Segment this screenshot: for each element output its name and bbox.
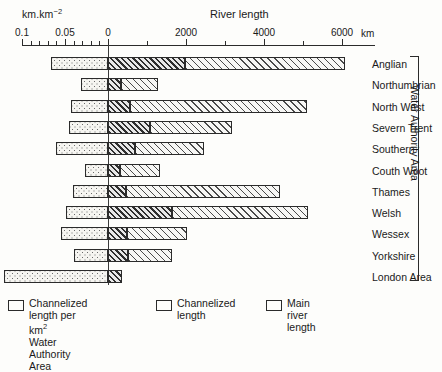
bar-segment-main-river[interactable] xyxy=(121,78,158,91)
legend-label: Channelized length xyxy=(177,297,235,321)
axis-tick-label: 6000 xyxy=(331,27,353,38)
category-label: Anglian xyxy=(372,58,407,70)
bar-segment-density[interactable] xyxy=(66,206,108,219)
legend-label: Main river length xyxy=(287,297,316,333)
bar-segment-channelized[interactable] xyxy=(108,57,185,70)
bar-segment-density[interactable] xyxy=(61,227,108,240)
bar-segment-density[interactable] xyxy=(69,121,108,134)
legend-swatch-hatch-dense xyxy=(156,300,172,311)
axis-tick-label: 4000 xyxy=(253,27,275,38)
axis-tick-label: 2000 xyxy=(175,27,197,38)
bar-segment-main-river[interactable] xyxy=(135,142,204,155)
bar-segment-density[interactable] xyxy=(4,270,108,283)
bar-segment-channelized[interactable] xyxy=(108,121,150,134)
legend-label: Channelized length per km2Water Authorit… xyxy=(29,297,87,372)
left-axis-unit-text: km.km−2 xyxy=(22,8,62,20)
axis-tick-label-left: 0.1 xyxy=(15,27,29,38)
legend-swatch-dots xyxy=(8,300,24,311)
bar-segment-density[interactable] xyxy=(85,164,108,177)
axis-line xyxy=(22,45,375,46)
bar-segment-channelized[interactable] xyxy=(108,185,126,198)
category-label: Wessex xyxy=(372,228,409,240)
bar-segment-main-river[interactable] xyxy=(128,249,172,262)
bar-segment-channelized[interactable] xyxy=(108,270,122,283)
bar-segment-channelized[interactable] xyxy=(108,227,127,240)
bar-segment-main-river[interactable] xyxy=(172,206,308,219)
bar-segment-main-river[interactable] xyxy=(130,100,307,113)
axis-tick-label-left: 0.05 xyxy=(55,27,74,38)
bar-segment-main-river[interactable] xyxy=(150,121,232,134)
category-label: Thames xyxy=(372,186,410,198)
bar-segment-main-river[interactable] xyxy=(126,185,280,198)
category-label: Welsh xyxy=(372,207,401,219)
chart-title: River length xyxy=(210,8,269,20)
bar-segment-channelized[interactable] xyxy=(108,249,128,262)
bar-segment-channelized[interactable] xyxy=(108,100,130,113)
left-axis-unit-label: km.km−2 xyxy=(22,6,62,20)
bar-segment-density[interactable] xyxy=(81,78,108,91)
category-label: Northumbrian xyxy=(372,79,436,91)
bar-segment-density[interactable] xyxy=(71,100,108,113)
bar-segment-main-river[interactable] xyxy=(127,227,187,240)
category-label: Severn Trent xyxy=(372,122,432,134)
chart-legend: Channelized length per km2Water Authorit… xyxy=(8,299,438,331)
bar-segment-channelized[interactable] xyxy=(108,78,121,91)
bar-segment-main-river[interactable] xyxy=(120,164,160,177)
bar-segment-main-river[interactable] xyxy=(185,57,345,70)
bar-segment-density[interactable] xyxy=(56,142,108,155)
bar-segment-density[interactable] xyxy=(51,57,108,70)
bar-segment-channelized[interactable] xyxy=(108,142,135,155)
bar-segment-channelized[interactable] xyxy=(108,206,172,219)
legend-swatch-hatch-light xyxy=(266,300,282,311)
category-label: London Area xyxy=(372,271,432,283)
axis-tick-label: 0 xyxy=(105,27,111,38)
bar-segment-density[interactable] xyxy=(73,185,108,198)
right-axis-unit-label: km xyxy=(361,28,374,39)
bar-segment-density[interactable] xyxy=(74,249,108,262)
bar-segment-channelized[interactable] xyxy=(108,164,120,177)
water-authority-bracket-label: Water Authority Area xyxy=(409,85,421,255)
